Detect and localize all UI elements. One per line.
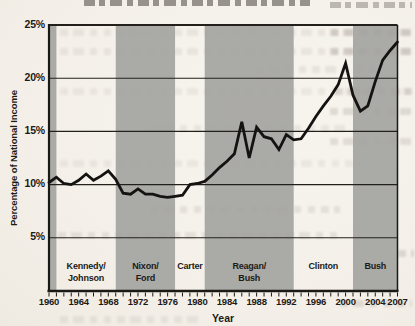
y-tick-label: 15% — [12, 125, 45, 137]
y-tick-label: 20% — [12, 72, 45, 84]
y-tick-label: 25% — [12, 19, 45, 31]
president-band-label: Bush — [335, 262, 415, 272]
president-band-label: Reagan/ — [209, 262, 289, 272]
administration-band — [116, 25, 175, 291]
x-axis-title: Year — [203, 312, 243, 324]
y-tick-label: 5% — [12, 231, 45, 243]
scanned-book-figure: Percentage of National Income Year 5%10%… — [0, 0, 415, 326]
y-tick-label: 10% — [12, 178, 45, 190]
y-axis-title: Percentage of National Income — [8, 90, 19, 226]
x-tick-label: 2007 — [380, 297, 415, 307]
administration-band — [49, 25, 56, 291]
president-band-label: Bush — [209, 274, 289, 284]
administration-band — [353, 25, 397, 291]
president-band-label: Ford — [105, 274, 185, 284]
